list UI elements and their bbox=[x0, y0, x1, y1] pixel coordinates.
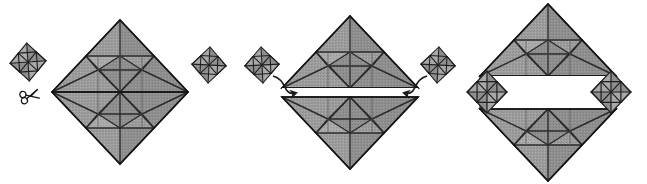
insertion-slot bbox=[282, 88, 418, 97]
origami-instruction-figure: Large folded diamond unit shown with cut… bbox=[0, 0, 647, 184]
diagram-canvas bbox=[0, 0, 647, 184]
